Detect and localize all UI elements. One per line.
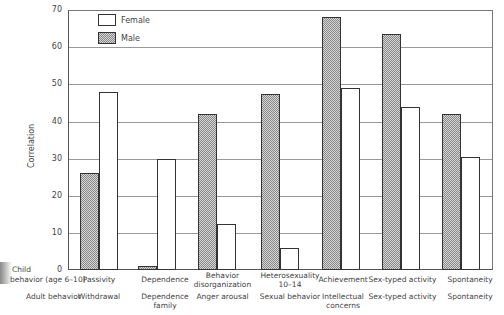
cat-sextyped-child: Sex-typed activity: [365, 275, 440, 284]
cat-passivity-adult: Withdrawal: [74, 292, 124, 301]
y-tick-10: 10: [38, 229, 62, 237]
bar-male-2: [198, 114, 217, 270]
bar-male-5: [382, 34, 401, 270]
cat-passivity-child: Passivity: [74, 275, 124, 284]
cat-behavior-child: Behaviordisorganization: [185, 271, 260, 289]
bar-female-1: [157, 159, 176, 270]
cat-behavior-adult: Anger arousal: [185, 292, 260, 301]
bar-female-0: [99, 92, 118, 270]
legend-label-male: Male: [121, 34, 140, 43]
y-tick-60: 60: [38, 43, 62, 51]
y-tick-40: 40: [38, 118, 62, 126]
cat-spontaneity-adult: Spontaneity: [440, 292, 500, 301]
bar-female-3: [280, 248, 299, 270]
y-tick-70: 70: [38, 6, 62, 14]
y-tick-30: 30: [38, 155, 62, 163]
y-tick-50: 50: [38, 80, 62, 88]
bar-male-6: [442, 114, 461, 270]
y-tick-0: 0: [38, 266, 62, 274]
bar-female-4: [341, 88, 360, 270]
y-tick-20: 20: [38, 192, 62, 200]
bar-male-1: [138, 266, 157, 270]
cat-spontaneity-child: Spontaneity: [440, 275, 500, 284]
bar-male-3: [261, 94, 280, 270]
cat-sextyped-adult: Sex-typed activity: [365, 292, 440, 301]
legend-swatch-male: [98, 32, 116, 44]
bar-female-5: [401, 107, 420, 270]
bar-male-0: [80, 173, 99, 270]
row-label-adult: Adult behavior: [26, 292, 81, 301]
row-label-child-1: Child: [12, 265, 31, 274]
bar-male-4: [322, 17, 341, 270]
legend-label-female: Female: [121, 16, 150, 25]
y-axis-label: Correlation: [27, 124, 36, 168]
correlation-bar-chart: 0 10 20 30 40 50 60 70 Correlation Femal…: [0, 0, 504, 315]
legend-swatch-female: [98, 14, 116, 26]
plot-frame: [68, 10, 493, 270]
bar-female-2: [217, 224, 236, 270]
bar-female-6: [461, 157, 480, 270]
